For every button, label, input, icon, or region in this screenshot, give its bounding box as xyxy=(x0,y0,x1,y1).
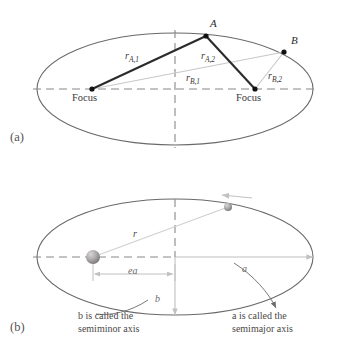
panel-b-graphics xyxy=(0,0,337,339)
panel-b-semimajor-leader xyxy=(234,263,276,308)
panel-b-semimajor-caption: a is called the semimajor axis xyxy=(232,310,293,335)
panel-b-sun-sphere xyxy=(86,250,100,264)
panel-b-semiminor-label: b xyxy=(155,293,160,304)
panel-b-direction-arrow xyxy=(222,195,252,198)
semimajor-caption-line-1: a is called the xyxy=(232,310,293,323)
panel-b-radius-r-line xyxy=(93,207,228,257)
semimajor-caption-line-2: semimajor axis xyxy=(232,323,293,336)
panel-b-semimajor-label: a xyxy=(242,263,247,274)
semiminor-caption-line-2: semiminor axis xyxy=(78,323,139,336)
panel-b-radius-label: r xyxy=(133,228,137,239)
semiminor-caption-line-1: b is called the xyxy=(78,310,139,323)
panel-b-tag: (b) xyxy=(10,320,25,334)
panel-b-planet-sphere xyxy=(224,203,232,211)
panel-b-semiminor-caption: b is called the semiminor axis xyxy=(78,310,139,335)
panel-b-ea-label: ea xyxy=(128,265,137,276)
orbit-ellipse-figure: A B Focus Focus rA,1 rA,2 rB,1 rB,2 (a) xyxy=(0,0,337,339)
